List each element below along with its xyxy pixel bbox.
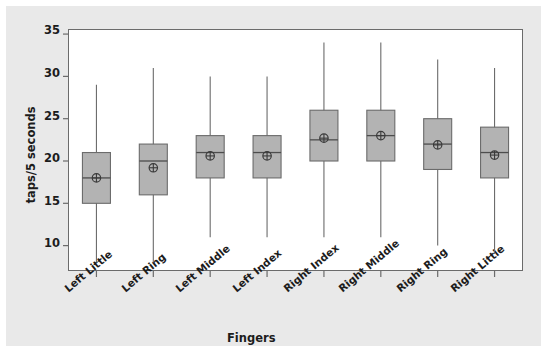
box-plot-group [196, 76, 224, 237]
box-plot-group [253, 76, 281, 237]
box-plot-group [424, 59, 452, 245]
box-plot-group [82, 85, 110, 263]
box-plot-group [367, 43, 395, 238]
box-plot-group [481, 68, 509, 254]
box-plots-layer [82, 43, 508, 263]
box-plot-group [310, 43, 338, 238]
box-plot-group [139, 68, 167, 263]
boxplot-figure: taps/5 seconds 35 30 25 20 15 10 Left Li… [0, 0, 547, 364]
chart-canvas [0, 0, 547, 364]
